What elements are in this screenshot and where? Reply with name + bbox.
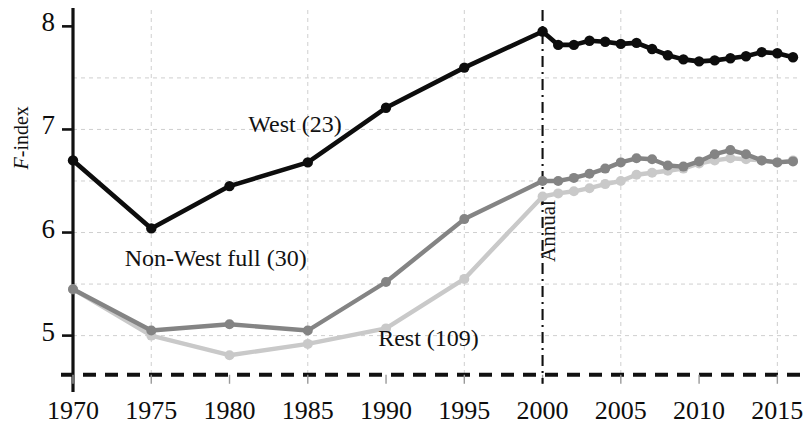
y-axis-tick-label: 7 (15, 110, 55, 141)
series-non-west-full (68, 145, 798, 335)
y-axis-tick-label: 6 (15, 214, 55, 245)
data-point (678, 162, 688, 172)
x-axis-tick-label: 1985 (263, 396, 353, 426)
data-point (600, 164, 610, 174)
y-axis-tick-label: 8 (15, 7, 55, 38)
data-point (678, 54, 688, 64)
data-point (772, 48, 782, 58)
data-point (569, 186, 579, 196)
data-point (303, 326, 313, 336)
data-point (600, 37, 610, 47)
data-point (553, 176, 563, 186)
data-point (741, 149, 751, 159)
data-point (663, 161, 673, 171)
data-point (381, 277, 391, 287)
x-axis-tick-label: 2015 (732, 396, 807, 426)
data-point (146, 223, 156, 233)
data-point (772, 157, 782, 167)
data-point (647, 154, 657, 164)
data-point (303, 157, 313, 167)
x-axis-tick-label: 1970 (28, 396, 118, 426)
x-axis-tick-label: 1995 (419, 396, 509, 426)
y-axis-tick-label: 5 (15, 317, 55, 348)
data-point (725, 145, 735, 155)
x-axis-tick-label: 2005 (576, 396, 666, 426)
series-label-rest: Rest (109) (378, 325, 479, 352)
series-label-west: West (23) (248, 111, 341, 138)
data-point (616, 176, 626, 186)
data-point (710, 55, 720, 65)
data-point (600, 179, 610, 189)
data-point (632, 153, 642, 163)
data-point (631, 38, 641, 48)
data-point (459, 274, 469, 284)
data-point (585, 169, 595, 179)
x-axis-tick-label: 2010 (654, 396, 744, 426)
data-point (303, 339, 313, 349)
data-point (584, 36, 594, 46)
data-point (459, 62, 469, 72)
data-point (225, 350, 235, 360)
x-axis-tick-label: 2000 (498, 396, 588, 426)
data-point (788, 156, 798, 166)
data-point (725, 53, 735, 63)
data-point (647, 168, 657, 178)
data-point (553, 188, 563, 198)
data-point (585, 183, 595, 193)
data-point (788, 52, 798, 62)
data-point (459, 214, 469, 224)
annual-divider-label: Annual (536, 200, 561, 262)
data-point (647, 44, 657, 54)
x-axis-tick-label: 1980 (185, 396, 275, 426)
data-point (694, 56, 704, 66)
y-axis-title-prefix: F (10, 157, 32, 169)
data-point (616, 39, 626, 49)
data-point (68, 284, 78, 294)
data-point (616, 157, 626, 167)
data-point (224, 181, 234, 191)
x-axis-tick-label: 1975 (106, 396, 196, 426)
data-point (694, 156, 704, 166)
data-point (225, 319, 235, 329)
data-point (710, 149, 720, 159)
data-point (757, 155, 767, 165)
data-point (553, 40, 563, 50)
data-point (569, 40, 579, 50)
x-axis-tick-label: 1990 (341, 396, 431, 426)
data-point (663, 50, 673, 60)
data-point (146, 326, 156, 336)
series-line (73, 150, 793, 330)
data-point (741, 51, 751, 61)
data-point (569, 173, 579, 183)
data-point (757, 47, 767, 57)
data-point (68, 155, 78, 165)
data-point (381, 103, 391, 113)
data-point (537, 26, 547, 36)
data-point (538, 176, 548, 186)
series-label-non-west-full: Non-West full (30) (125, 245, 307, 272)
data-point (632, 170, 642, 180)
